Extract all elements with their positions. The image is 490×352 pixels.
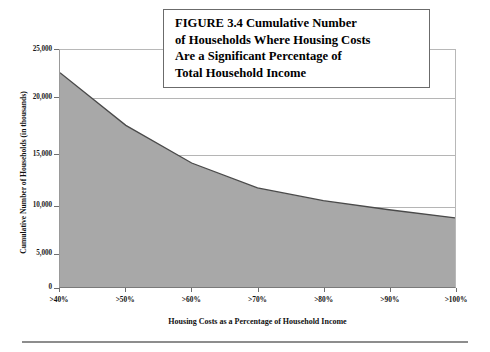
figure-title-line-1: FIGURE 3.4 Cumulative Number (175, 15, 420, 32)
y-tick-mark-25000 (54, 49, 59, 50)
x-tick-label: >100% (445, 295, 468, 304)
y-tick-label-15000: 15,000 (33, 151, 52, 158)
figure-title-box: FIGURE 3.4 Cumulative Number of Househol… (163, 9, 430, 88)
x-tick-label: >80% (314, 295, 333, 304)
x-axis-title: Housing Costs as a Percentage of Househo… (59, 317, 456, 326)
y-tick-label-10000: 10,000 (33, 202, 52, 209)
footer-divider (22, 341, 468, 343)
x-tick-label: >50% (116, 295, 135, 304)
figure-title-line-3: Are a Significant Percentage of (175, 48, 420, 65)
y-tick-mark-5000 (54, 254, 59, 255)
x-tick-mark (390, 288, 391, 292)
x-tick-mark (125, 288, 126, 292)
x-tick-mark (59, 288, 60, 292)
x-tick-mark (258, 288, 259, 292)
y-axis-title: Cumulative Number of Households (in thou… (19, 73, 28, 273)
y-tick-mark-10000 (54, 206, 59, 207)
x-tick-mark (456, 288, 457, 292)
x-tick-mark (324, 288, 325, 292)
x-tick-label: >60% (182, 295, 201, 304)
x-tick-label: >70% (248, 295, 267, 304)
x-tick-label: >40% (50, 295, 69, 304)
y-tick-label-0: 0 (49, 284, 53, 291)
y-tick-mark-20000 (54, 97, 59, 98)
figure-title-line-4: Total Household Income (175, 65, 420, 82)
y-tick-label-5000: 5,000 (36, 250, 52, 257)
y-tick-label-20000: 20,000 (33, 94, 52, 101)
y-tick-mark-15000 (54, 154, 59, 155)
x-tick-mark (191, 288, 192, 292)
y-tick-label-25000: 25,000 (33, 46, 52, 53)
x-tick-label: >90% (380, 295, 399, 304)
figure-title-line-2: of Households Where Housing Costs (175, 32, 420, 49)
figure-container: 25,000 20,000 15,000 10,000 5,000 0 Cumu… (0, 0, 490, 352)
